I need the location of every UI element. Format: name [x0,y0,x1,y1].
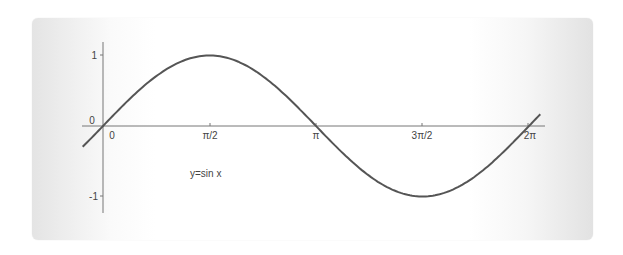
x-label-2pi: 2π [524,130,537,141]
y-label-1: 1 [91,50,97,61]
y-label-0: 0 [89,115,95,126]
y-label-neg1: -1 [89,191,98,202]
sine-chart: 0 0 π/2 π 3π/2 2π 1 -1 y=sin x [0,0,623,255]
x-label-3pi2: 3π/2 [412,130,433,141]
x-label-0: 0 [109,130,115,141]
x-label-pi: π [313,130,320,141]
x-label-pi2: π/2 [202,130,218,141]
function-label: y=sin x [190,168,221,179]
